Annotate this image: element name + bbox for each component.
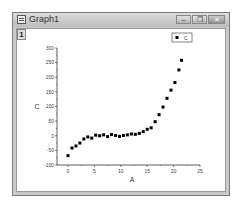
legend-box	[172, 33, 192, 42]
y-tick-label: 250	[46, 59, 55, 65]
scatter-plot: -100-500501001502002503000510152025ACC	[0, 0, 240, 204]
data-point	[70, 147, 73, 150]
data-point	[134, 133, 137, 136]
data-point	[122, 134, 125, 137]
y-tick-label: 0	[51, 133, 54, 139]
x-tick-label: 20	[171, 168, 177, 174]
y-tick-label: -50	[47, 147, 54, 153]
data-point	[94, 134, 97, 137]
data-point	[162, 106, 165, 109]
data-point	[142, 130, 145, 133]
data-point	[126, 133, 129, 136]
y-tick-label: 300	[46, 45, 55, 51]
legend-label: C	[184, 35, 188, 41]
y-tick-label: 150	[46, 89, 55, 95]
data-point	[158, 113, 161, 116]
data-point	[118, 135, 121, 138]
data-point	[173, 81, 176, 84]
data-point	[67, 154, 70, 157]
data-point	[150, 126, 153, 129]
data-point	[98, 134, 101, 137]
data-point	[177, 68, 180, 71]
data-point	[138, 132, 141, 135]
data-point	[166, 97, 169, 100]
data-point	[78, 142, 81, 145]
y-tick-label: 200	[46, 74, 55, 80]
data-point	[180, 59, 183, 62]
data-point	[102, 133, 105, 136]
data-point	[130, 132, 133, 135]
x-tick-label: 5	[93, 168, 96, 174]
data-point	[106, 135, 109, 138]
y-axis-title: C	[34, 103, 39, 110]
y-tick-label: -100	[44, 162, 54, 168]
data-point	[110, 133, 113, 136]
data-point	[90, 137, 93, 140]
x-tick-label: 10	[118, 168, 124, 174]
x-axis-title: A	[130, 176, 135, 183]
x-tick-label: 0	[67, 168, 70, 174]
data-point	[82, 137, 85, 140]
data-point	[86, 135, 89, 138]
data-point	[74, 144, 77, 147]
data-point	[114, 134, 117, 137]
data-point	[169, 89, 172, 92]
data-point	[154, 120, 157, 123]
y-tick-label: 100	[46, 103, 55, 109]
legend-marker	[176, 36, 179, 39]
data-point	[146, 128, 149, 131]
x-tick-label: 25	[197, 168, 203, 174]
x-tick-label: 15	[144, 168, 150, 174]
y-tick-label: 50	[48, 118, 54, 124]
